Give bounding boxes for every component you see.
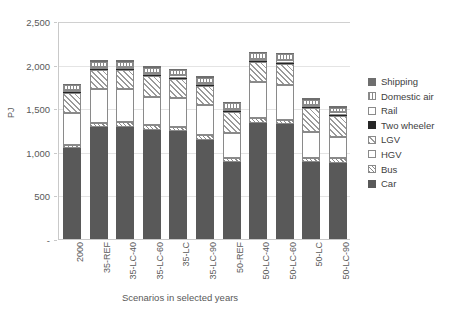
y-tick-mark bbox=[54, 22, 57, 23]
legend-label: Two wheeler bbox=[381, 120, 434, 131]
segment-lgv bbox=[143, 76, 161, 97]
legend-label: LGV bbox=[381, 134, 400, 145]
x-tick-label: 50-LC-60 bbox=[288, 242, 298, 280]
bar-2000[interactable] bbox=[63, 84, 81, 239]
y-tick-label: 2,500 bbox=[26, 17, 50, 28]
y-tick-label: - bbox=[47, 235, 50, 246]
bar-50-lc-40[interactable] bbox=[249, 52, 267, 239]
legend-swatch-icon bbox=[368, 165, 376, 173]
bar-series-layer bbox=[59, 22, 350, 239]
legend-label: Rail bbox=[381, 105, 397, 116]
segment-car bbox=[223, 162, 241, 239]
segment-hgv bbox=[143, 97, 161, 125]
bar-35-lc-60[interactable] bbox=[143, 66, 161, 239]
legend-swatch-icon bbox=[368, 136, 376, 144]
bar-35-lc-90[interactable] bbox=[196, 76, 214, 239]
bar-35-lc-40[interactable] bbox=[116, 60, 134, 239]
x-axis-title: Scenarios in selected years bbox=[0, 292, 360, 303]
x-tick-label: 2000 bbox=[75, 242, 85, 262]
legend-swatch-icon bbox=[368, 92, 376, 100]
bar-50-lc-90[interactable] bbox=[329, 106, 347, 239]
segment-lgv bbox=[169, 79, 187, 99]
legend-item-two-wheeler[interactable]: Two wheeler bbox=[368, 120, 434, 131]
x-tick-label: 35-LC-60 bbox=[155, 242, 165, 280]
segment-car bbox=[63, 148, 81, 239]
segment-car bbox=[276, 124, 294, 239]
x-tick-label: 50-REF bbox=[235, 242, 245, 273]
y-axis-tick-labels: -5001,0001,5002,0002,500 bbox=[0, 22, 54, 240]
legend-item-bus[interactable]: Bus bbox=[368, 164, 434, 175]
segment-lgv bbox=[196, 86, 214, 105]
segment-lgv bbox=[329, 116, 347, 137]
y-tick-label: 2,000 bbox=[26, 60, 50, 71]
legend-label: Car bbox=[381, 178, 396, 189]
x-tick-label: 50-LC bbox=[314, 242, 324, 267]
legend-item-hgv[interactable]: HGV bbox=[368, 149, 434, 160]
legend-item-lgv[interactable]: LGV bbox=[368, 134, 434, 145]
segment-car bbox=[302, 162, 320, 239]
legend-swatch-icon bbox=[368, 180, 376, 188]
legend-item-domestic-air[interactable]: Domestic air bbox=[368, 91, 434, 102]
legend-item-shipping[interactable]: Shipping bbox=[368, 76, 434, 87]
bar-50-ref[interactable] bbox=[223, 102, 241, 239]
x-tick-label: 35-LC-90 bbox=[208, 242, 218, 280]
legend-label: Bus bbox=[381, 164, 397, 175]
segment-car bbox=[169, 131, 187, 239]
legend-label: Domestic air bbox=[381, 91, 434, 102]
stacked-bar-chart: PJ -5001,0001,5002,0002,500 200035-REF35… bbox=[0, 0, 472, 313]
x-tick-label: 35-LC bbox=[181, 242, 191, 267]
y-tick-mark bbox=[54, 153, 57, 154]
segment-lgv bbox=[223, 112, 241, 133]
segment-car bbox=[116, 127, 134, 239]
legend-item-car[interactable]: Car bbox=[368, 178, 434, 189]
segment-lgv bbox=[302, 108, 320, 132]
segment-car bbox=[196, 140, 214, 239]
segment-hgv bbox=[223, 133, 241, 158]
chart-legend: ShippingDomestic airRailTwo wheelerLGVHG… bbox=[368, 76, 434, 189]
y-tick-mark bbox=[54, 196, 57, 197]
legend-swatch-icon bbox=[368, 121, 376, 129]
legend-label: Shipping bbox=[381, 76, 418, 87]
legend-swatch-icon bbox=[368, 150, 376, 158]
bar-50-lc-60[interactable] bbox=[276, 53, 294, 239]
y-tick-mark bbox=[54, 240, 57, 241]
segment-lgv bbox=[276, 64, 294, 85]
segment-hgv bbox=[169, 98, 187, 127]
legend-swatch-icon bbox=[368, 78, 376, 86]
segment-car bbox=[249, 123, 267, 239]
segment-hgv bbox=[329, 137, 347, 159]
legend-label: HGV bbox=[381, 149, 402, 160]
plot-area bbox=[58, 22, 350, 240]
y-tick-mark bbox=[54, 109, 57, 110]
legend-item-rail[interactable]: Rail bbox=[368, 105, 434, 116]
segment-lgv bbox=[63, 93, 81, 113]
x-tick-label: 35-LC-40 bbox=[128, 242, 138, 280]
segment-lgv bbox=[249, 62, 267, 82]
segment-hgv bbox=[276, 85, 294, 120]
segment-lgv bbox=[90, 70, 108, 89]
bar-50-lc[interactable] bbox=[302, 98, 320, 239]
segment-hgv bbox=[116, 89, 134, 122]
segment-lgv bbox=[116, 70, 134, 89]
y-tick-mark bbox=[54, 66, 57, 67]
x-tick-label: 50-LC-40 bbox=[261, 242, 271, 280]
segment-car bbox=[329, 163, 347, 239]
y-tick-label: 1,000 bbox=[26, 147, 50, 158]
bar-35-ref[interactable] bbox=[90, 60, 108, 239]
segment-car bbox=[143, 130, 161, 239]
y-tick-label: 500 bbox=[34, 191, 50, 202]
segment-hgv bbox=[90, 89, 108, 123]
segment-hgv bbox=[302, 132, 320, 158]
segment-car bbox=[90, 127, 108, 239]
legend-swatch-icon bbox=[368, 107, 376, 115]
segment-hgv bbox=[63, 113, 81, 145]
y-tick-label: 1,500 bbox=[26, 104, 50, 115]
x-tick-label: 50-LC-90 bbox=[341, 242, 351, 280]
x-tick-label: 35-REF bbox=[102, 242, 112, 273]
segment-hgv bbox=[196, 105, 214, 135]
segment-hgv bbox=[249, 82, 267, 118]
x-axis-tick-labels: 200035-REF35-LC-4035-LC-6035-LC35-LC-905… bbox=[58, 242, 350, 292]
bar-35-lc[interactable] bbox=[169, 69, 187, 239]
